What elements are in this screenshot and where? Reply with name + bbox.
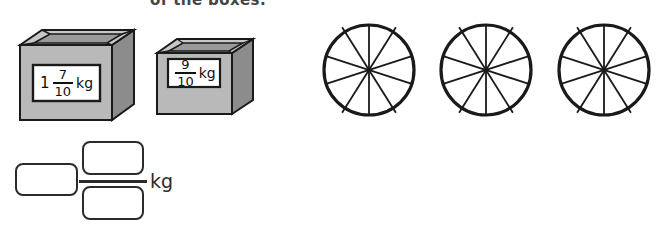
circle-2-center-dot <box>484 68 488 72</box>
answer-fraction-bar <box>79 180 147 183</box>
box-2-unit: kg <box>199 66 216 80</box>
worksheet-canvas: of the boxes. 1 7 10 <box>0 0 657 230</box>
circle-2 <box>441 25 531 115</box>
fraction-circles-group <box>300 14 657 130</box>
box-2-denominator: 10 <box>175 75 196 88</box>
box-1-numerator: 7 <box>57 68 69 81</box>
box-2-inner-opening <box>169 43 243 51</box>
circle-3-center-dot <box>602 68 606 72</box>
answer-numerator-box[interactable] <box>82 141 144 175</box>
box-1-denominator: 10 <box>53 85 74 98</box>
box-1-inner-opening <box>34 34 122 43</box>
circle-3 <box>559 25 649 115</box>
box-2-weight-label: 9 10 kg <box>168 59 220 87</box>
box-1: 1 7 10 kg <box>12 14 138 132</box>
box-1-fraction: 7 10 <box>53 68 74 98</box>
box-2: 9 10 kg <box>150 28 258 126</box>
answer-denominator-box[interactable] <box>82 186 144 220</box>
circle-1 <box>324 25 414 115</box>
box-1-weight-label: 1 7 10 kg <box>33 65 100 101</box>
box-2-numerator: 9 <box>179 58 191 71</box>
answer-whole-number-box[interactable] <box>15 163 78 196</box>
box-2-fraction: 9 10 <box>175 58 196 88</box>
box-1-unit: kg <box>76 76 93 90</box>
page-title: of the boxes. <box>150 0 266 9</box>
circle-1-center-dot <box>367 68 371 72</box>
fraction-circles-svg <box>300 14 657 126</box>
box-1-whole-number: 1 <box>40 76 50 91</box>
answer-unit-label: kg <box>150 172 173 191</box>
